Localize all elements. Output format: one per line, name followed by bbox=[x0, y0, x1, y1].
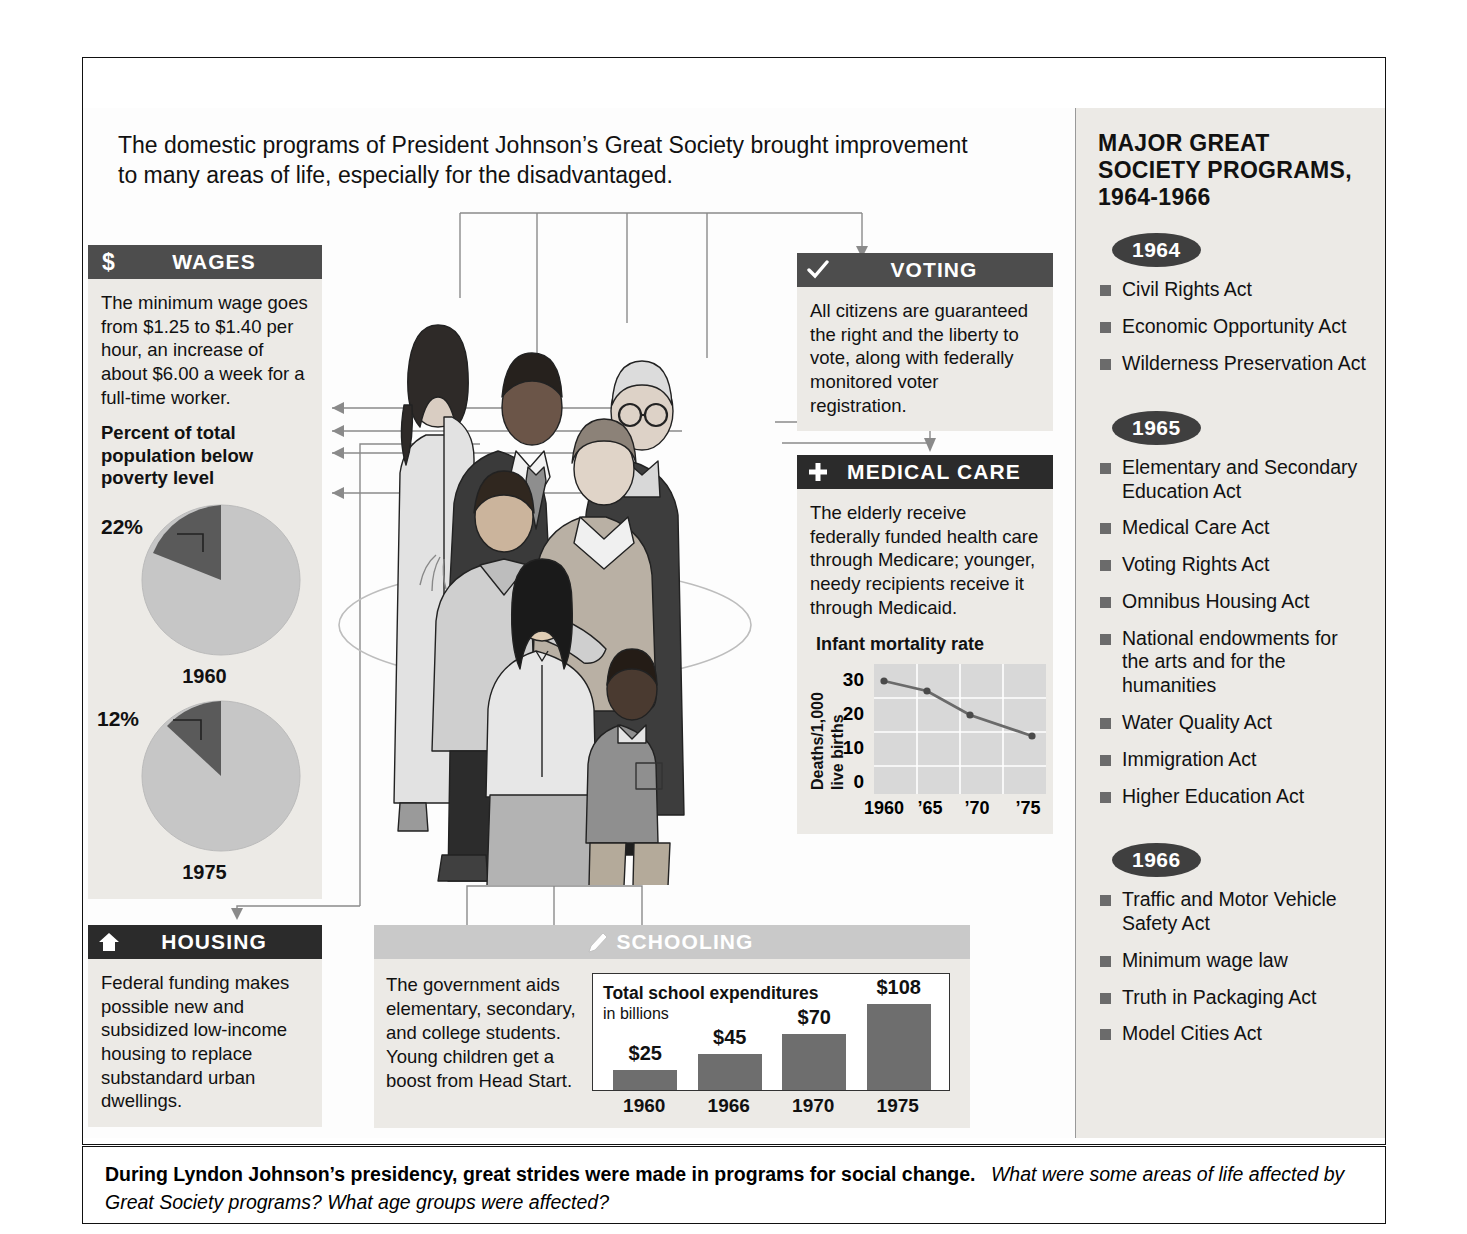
program-item: National endowments for the arts and for… bbox=[1100, 627, 1369, 698]
bar-x-label: 1975 bbox=[865, 1094, 931, 1118]
wages-chart-subhead: Percent of total population below povert… bbox=[101, 422, 308, 490]
sidebar-heading: MAJOR GREAT SOCIETY PROGRAMS, 1964-1966 bbox=[1098, 130, 1369, 211]
schooling-header: SCHOOLING bbox=[374, 925, 970, 959]
bar-x-label: 1966 bbox=[696, 1094, 762, 1118]
housing-panel: HOUSING Federal funding makes possible n… bbox=[88, 925, 322, 1127]
caption-box: During Lyndon Johnson’s presidency, grea… bbox=[82, 1146, 1386, 1224]
program-item: Minimum wage law bbox=[1100, 949, 1369, 973]
program-item: Immigration Act bbox=[1100, 748, 1369, 772]
bar-value-label: $25 bbox=[629, 1041, 662, 1067]
svg-text:’70: ’70 bbox=[964, 798, 989, 818]
program-label: Higher Education Act bbox=[1122, 785, 1304, 809]
program-label: Minimum wage law bbox=[1122, 949, 1288, 973]
program-item: Civil Rights Act bbox=[1100, 278, 1369, 302]
program-item: Omnibus Housing Act bbox=[1100, 590, 1369, 614]
bullet-icon bbox=[1100, 322, 1111, 333]
program-label: Model Cities Act bbox=[1122, 1022, 1262, 1046]
voting-header-label: VOTING bbox=[890, 258, 991, 282]
infant-mortality-ylabel: Deaths/1,000 live births bbox=[808, 662, 849, 790]
schooling-text: The government aids elementary, secondar… bbox=[386, 973, 578, 1118]
program-item: Water Quality Act bbox=[1100, 711, 1369, 735]
sidebar-group-1965: 1965 Elementary and Secondary Education … bbox=[1098, 389, 1369, 809]
sidebar-group-1964: 1964 Civil Rights Act Economic Opportuni… bbox=[1098, 211, 1369, 375]
bullet-icon bbox=[1100, 956, 1111, 967]
bullet-icon bbox=[1100, 523, 1111, 534]
poverty-pie-1975: 12% 1975 bbox=[101, 700, 308, 886]
school-expenditures-chart: Total school expenditures in billions $2… bbox=[592, 973, 950, 1118]
year-badge: 1965 bbox=[1112, 411, 1201, 445]
program-item: Voting Rights Act bbox=[1100, 553, 1369, 577]
intro-paragraph: The domestic programs of President Johns… bbox=[118, 130, 978, 191]
voting-body: All citizens are guaranteed the right an… bbox=[797, 287, 1053, 431]
program-item: Economic Opportunity Act bbox=[1100, 315, 1369, 339]
program-label: Voting Rights Act bbox=[1122, 553, 1269, 577]
major-programs-sidebar: MAJOR GREAT SOCIETY PROGRAMS, 1964-1966 … bbox=[1075, 108, 1385, 1138]
infant-mortality-title: Infant mortality rate bbox=[816, 633, 1039, 656]
svg-text:1960: 1960 bbox=[864, 798, 904, 818]
program-label: Traffic and Motor Vehicle Safety Act bbox=[1122, 888, 1369, 936]
bar-column: $108 bbox=[866, 975, 932, 1090]
sidebar-group-1966: 1966 Traffic and Motor Vehicle Safety Ac… bbox=[1098, 821, 1369, 1046]
bullet-icon bbox=[1100, 1029, 1111, 1040]
program-label: Water Quality Act bbox=[1122, 711, 1272, 735]
program-label: Economic Opportunity Act bbox=[1122, 315, 1346, 339]
bar-value-label: $45 bbox=[713, 1025, 746, 1051]
medical-care-header: MEDICAL CARE bbox=[797, 455, 1053, 489]
housing-text: Federal funding makes possible new and s… bbox=[101, 971, 308, 1113]
poverty-pie-1960-svg bbox=[141, 504, 301, 656]
school-expenditures-plot: Total school expenditures in billions $2… bbox=[592, 973, 950, 1091]
bar-column: $70 bbox=[781, 1005, 847, 1090]
program-label: Medical Care Act bbox=[1122, 516, 1269, 540]
voting-text: All citizens are guaranteed the right an… bbox=[810, 299, 1039, 417]
housing-header: HOUSING bbox=[88, 925, 322, 959]
program-label: National endowments for the arts and for… bbox=[1122, 627, 1369, 698]
svg-text:’65: ’65 bbox=[917, 798, 942, 818]
bar-x-label: 1970 bbox=[780, 1094, 846, 1118]
medical-care-text: The elderly receive federally funded hea… bbox=[810, 501, 1039, 619]
program-item: Traffic and Motor Vehicle Safety Act bbox=[1100, 888, 1369, 936]
house-icon bbox=[98, 931, 120, 953]
school-expenditures-xlabels: 1960 1966 1970 1975 bbox=[602, 1094, 940, 1118]
wages-text: The minimum wage goes from $1.25 to $1.4… bbox=[101, 291, 308, 409]
bar-column: $25 bbox=[612, 1041, 678, 1090]
bar-rect bbox=[698, 1054, 762, 1090]
medical-care-panel: MEDICAL CARE The elderly receive federal… bbox=[797, 455, 1053, 834]
school-expenditures-bars: $25 $45 $70 $108 bbox=[603, 994, 941, 1090]
bullet-icon bbox=[1100, 993, 1111, 1004]
bar-x-label: 1960 bbox=[611, 1094, 677, 1118]
wages-header-label: WAGES bbox=[172, 250, 270, 274]
year-badge: 1966 bbox=[1112, 843, 1201, 877]
bullet-icon bbox=[1100, 634, 1111, 645]
bullet-icon bbox=[1100, 597, 1111, 608]
svg-text:0: 0 bbox=[853, 771, 864, 792]
bar-rect bbox=[613, 1070, 677, 1090]
bar-value-label: $108 bbox=[877, 975, 922, 1001]
program-item: Higher Education Act bbox=[1100, 785, 1369, 809]
medical-care-body: The elderly receive federally funded hea… bbox=[797, 489, 1053, 834]
housing-header-label: HOUSING bbox=[161, 930, 281, 954]
infant-mortality-svg: 30 20 10 0 bbox=[832, 660, 1054, 818]
wages-panel: $ WAGES The minimum wage goes from $1.25… bbox=[88, 245, 322, 899]
program-label: Civil Rights Act bbox=[1122, 278, 1252, 302]
bullet-icon bbox=[1100, 792, 1111, 803]
bullet-icon bbox=[1100, 285, 1111, 296]
voting-header: VOTING bbox=[797, 253, 1053, 287]
program-label: Truth in Packaging Act bbox=[1122, 986, 1316, 1010]
program-label: Immigration Act bbox=[1122, 748, 1256, 772]
svg-text:’75: ’75 bbox=[1015, 798, 1040, 818]
housing-body: Federal funding makes possible new and s… bbox=[88, 959, 322, 1127]
poverty-pie-1975-year: 1975 bbox=[101, 860, 308, 886]
bullet-icon bbox=[1100, 718, 1111, 729]
poverty-pie-1960-label: 22% bbox=[101, 514, 143, 541]
schooling-header-label: SCHOOLING bbox=[616, 930, 767, 954]
plus-icon bbox=[807, 461, 829, 483]
program-label: Elementary and Secondary Education Act bbox=[1122, 456, 1369, 504]
bullet-icon bbox=[1100, 463, 1111, 474]
infographic-page: THE GREAT SOCIETY The domestic programs … bbox=[0, 0, 1467, 1234]
program-item: Elementary and Secondary Education Act bbox=[1100, 456, 1369, 504]
poverty-pie-1960: 22% 1960 bbox=[101, 504, 308, 690]
bullet-icon bbox=[1100, 755, 1111, 766]
diverse-family-group-illustration bbox=[330, 255, 760, 885]
program-item: Model Cities Act bbox=[1100, 1022, 1369, 1046]
bullet-icon bbox=[1100, 895, 1111, 906]
